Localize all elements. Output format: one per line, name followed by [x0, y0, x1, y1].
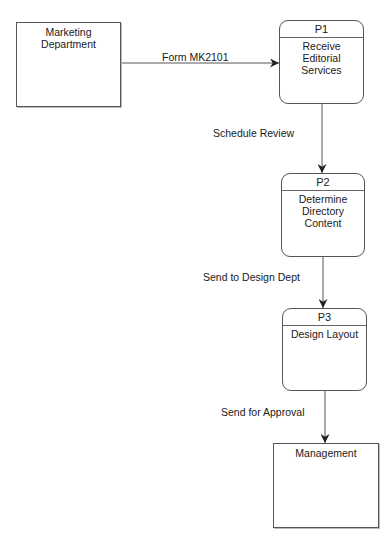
process-name-line: Design Layout	[283, 328, 366, 340]
process-name-line: Services	[280, 64, 363, 76]
entity-marketing-department[interactable]: Marketing Department	[16, 22, 121, 107]
process-p2[interactable]: P2 Determine Directory Content	[281, 173, 365, 257]
process-name: Determine Directory Content	[282, 191, 364, 229]
entity-management[interactable]: Management	[273, 443, 379, 528]
flow-label-schedule-review: Schedule Review	[213, 127, 294, 139]
process-name-line: Receive	[280, 40, 363, 52]
flow-label-form-mk2101: Form MK2101	[162, 51, 229, 63]
process-name: Design Layout	[283, 326, 366, 340]
process-p1[interactable]: P1 Receive Editorial Services	[279, 20, 364, 104]
entity-label: Marketing Department	[17, 23, 120, 50]
flow-label-send-for-approval: Send for Approval	[221, 406, 304, 418]
process-id: P3	[283, 309, 366, 326]
entity-label-line: Management	[274, 447, 378, 459]
process-id: P2	[282, 174, 364, 191]
process-name-line: Content	[282, 217, 364, 229]
process-name-line: Determine	[282, 193, 364, 205]
flow-label-send-to-design-dept: Send to Design Dept	[203, 271, 300, 283]
entity-label-line: Department	[17, 38, 120, 50]
entity-label-line: Marketing	[17, 26, 120, 38]
entity-label: Management	[274, 444, 378, 459]
process-id: P1	[280, 21, 363, 38]
process-p3[interactable]: P3 Design Layout	[282, 308, 367, 391]
process-name-line: Directory	[282, 205, 364, 217]
process-name: Receive Editorial Services	[280, 38, 363, 76]
process-name-line: Editorial	[280, 52, 363, 64]
